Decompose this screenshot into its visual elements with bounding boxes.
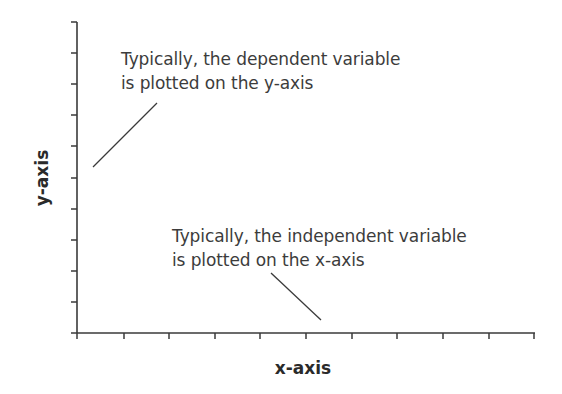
y-annotation-line-1: Typically, the dependent variable — [121, 47, 400, 71]
y-annotation-leader-line — [93, 103, 157, 167]
axes-diagram: Typically, the dependent variable is plo… — [0, 0, 562, 394]
x-annotation-line-1: Typically, the independent variable — [172, 224, 467, 248]
y-axis-ticks — [71, 22, 77, 302]
x-axis-ticks — [77, 333, 534, 339]
y-axis-label: y-axis — [32, 150, 52, 207]
y-axis-annotation: Typically, the dependent variable is plo… — [121, 47, 400, 95]
x-axis-annotation: Typically, the independent variable is p… — [172, 224, 467, 272]
x-annotation-leader-line — [271, 273, 321, 320]
x-annotation-line-2: is plotted on the x-axis — [172, 248, 467, 272]
x-axis-label: x-axis — [275, 358, 331, 378]
y-annotation-line-2: is plotted on the y-axis — [121, 71, 400, 95]
